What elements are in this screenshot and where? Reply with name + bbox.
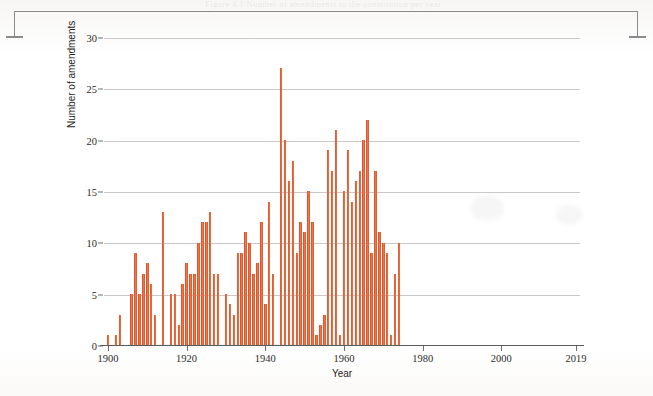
x-tick-label: 1980 [412, 353, 433, 364]
bar [311, 222, 313, 345]
bar [362, 140, 364, 345]
bar-chart: Number of amendments 051015202530 190019… [0, 0, 653, 396]
bar [327, 150, 329, 345]
bar [189, 274, 191, 346]
plot-area: 051015202530 190019201940196019802000201… [104, 38, 580, 346]
bar [272, 274, 274, 346]
bar [119, 315, 121, 346]
y-tick-mark [98, 243, 103, 244]
bar [150, 284, 152, 346]
bar [355, 181, 357, 345]
bar [225, 294, 227, 345]
bar [296, 253, 298, 345]
bar [307, 191, 309, 345]
gridline [104, 141, 580, 142]
bar [181, 284, 183, 346]
bar [193, 274, 195, 346]
bar [264, 304, 266, 345]
bar [299, 222, 301, 345]
y-tick-label: 5 [92, 289, 97, 300]
bar [213, 274, 215, 346]
bar [331, 171, 333, 346]
x-tick-mark [344, 346, 345, 351]
y-tick-label: 25 [87, 84, 98, 95]
bar [240, 253, 242, 345]
bar [146, 263, 148, 345]
bar [154, 315, 156, 346]
y-tick-mark [98, 38, 103, 39]
bar [138, 294, 140, 345]
bar [347, 150, 349, 345]
gridline [104, 38, 580, 39]
bar [142, 274, 144, 346]
bar [394, 274, 396, 346]
x-tick-mark [108, 346, 109, 351]
bar [359, 171, 361, 346]
x-tick-label: 1900 [97, 353, 118, 364]
bar [343, 191, 345, 345]
x-tick-label: 2000 [491, 353, 512, 364]
bar [209, 212, 211, 345]
bar [288, 181, 290, 345]
x-tick-label: 2019 [566, 353, 587, 364]
bar [252, 274, 254, 346]
bar [244, 232, 246, 345]
y-tick-label: 10 [87, 238, 98, 249]
x-axis-label: Year [104, 368, 580, 379]
y-axis-label: Number of amendments [66, 21, 77, 128]
bar [205, 222, 207, 345]
bar [374, 171, 376, 346]
bar [335, 130, 337, 346]
x-tick-mark [576, 346, 577, 351]
bar [170, 294, 172, 345]
x-tick-mark [501, 346, 502, 351]
bar [378, 232, 380, 345]
bar [162, 212, 164, 345]
bar [303, 232, 305, 345]
y-tick-mark [98, 192, 103, 193]
bar [229, 304, 231, 345]
bar [319, 325, 321, 346]
bar [292, 161, 294, 346]
bar [237, 253, 239, 345]
bar [248, 243, 250, 346]
bar [260, 222, 262, 345]
bar [134, 253, 136, 345]
bar [174, 294, 176, 345]
y-tick-label: 20 [87, 135, 98, 146]
x-axis-line [100, 345, 584, 346]
x-tick-mark [265, 346, 266, 351]
y-tick-label: 30 [87, 33, 98, 44]
x-tick-label: 1960 [333, 353, 354, 364]
bar [217, 274, 219, 346]
y-tick-mark [98, 294, 103, 295]
gridline [104, 89, 580, 90]
bar [130, 294, 132, 345]
bar [366, 120, 368, 346]
bar [382, 243, 384, 346]
bar [351, 202, 353, 346]
bar [178, 325, 180, 346]
bar [268, 202, 270, 346]
bar [284, 140, 286, 345]
bar [233, 315, 235, 346]
bar [370, 253, 372, 345]
bar [197, 243, 199, 346]
bar [280, 68, 282, 345]
bar [386, 253, 388, 345]
x-tick-mark [423, 346, 424, 351]
y-tick-mark [98, 140, 103, 141]
y-tick-mark [98, 89, 103, 90]
y-tick-label: 15 [87, 187, 98, 198]
bar [398, 243, 400, 346]
x-tick-mark [187, 346, 188, 351]
y-tick-label: 0 [92, 341, 97, 352]
bar [323, 315, 325, 346]
bar [185, 263, 187, 345]
bar [256, 263, 258, 345]
x-tick-label: 1940 [255, 353, 276, 364]
bar [201, 222, 203, 345]
x-tick-label: 1920 [176, 353, 197, 364]
